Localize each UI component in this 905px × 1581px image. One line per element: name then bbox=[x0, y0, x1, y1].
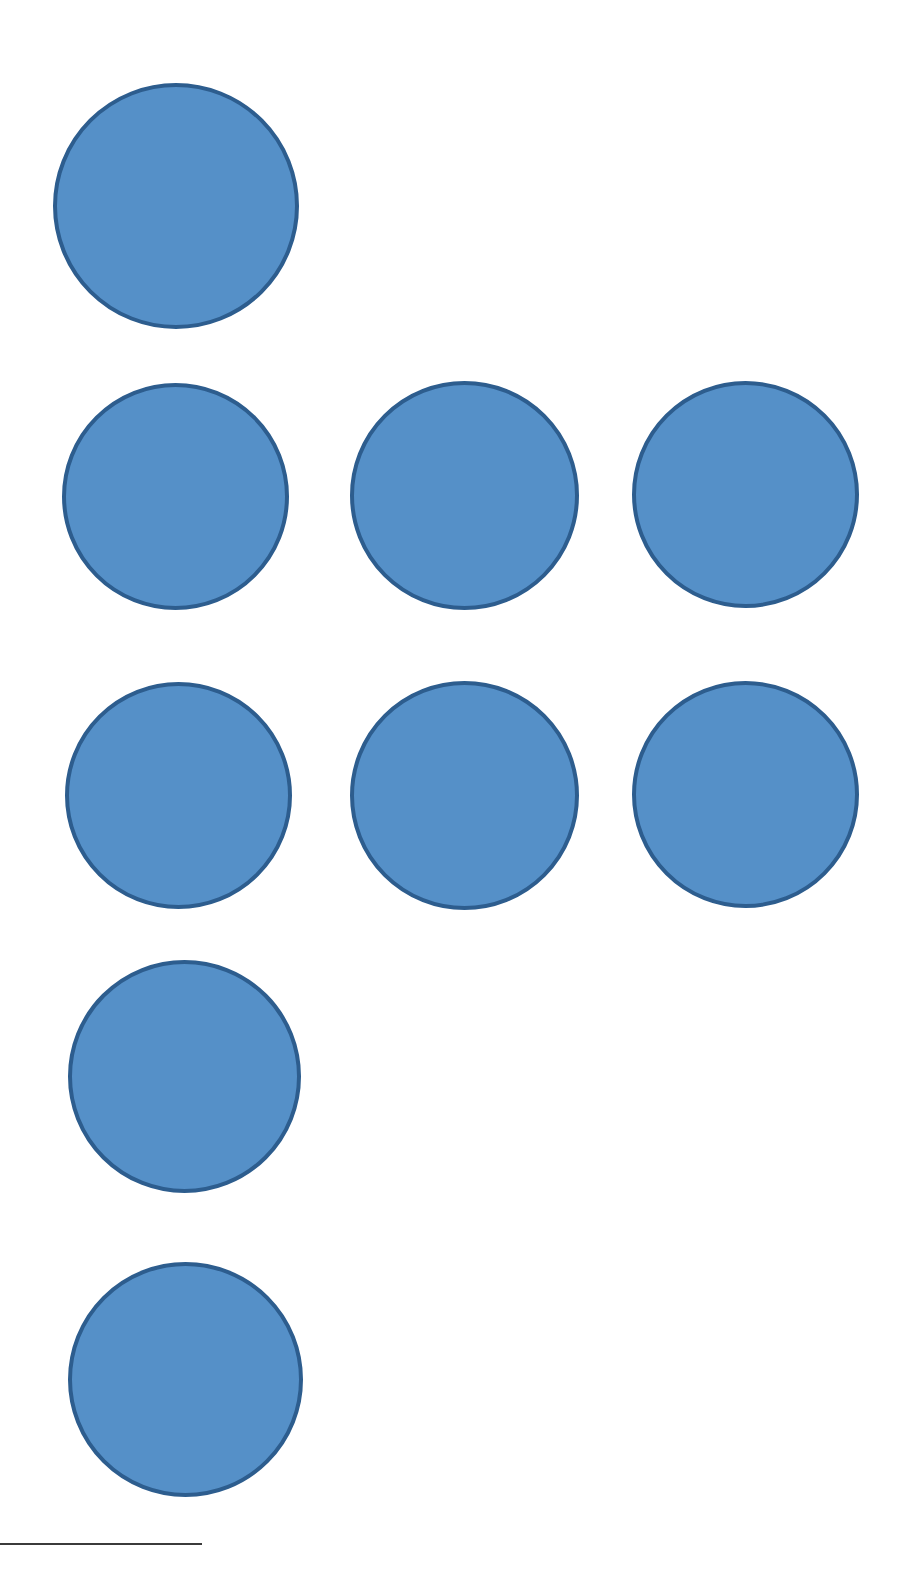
circle-mark bbox=[350, 381, 579, 610]
circle-mark bbox=[53, 83, 299, 329]
scanned-page bbox=[0, 0, 905, 1581]
circle-mark bbox=[62, 383, 289, 610]
circle-mark bbox=[68, 960, 301, 1193]
circle-mark bbox=[65, 682, 292, 909]
circle-mark bbox=[350, 681, 579, 910]
circle-mark bbox=[632, 681, 859, 908]
circle-mark bbox=[68, 1262, 303, 1497]
circle-mark bbox=[632, 381, 859, 608]
footnote-separator-rule bbox=[0, 1543, 202, 1545]
